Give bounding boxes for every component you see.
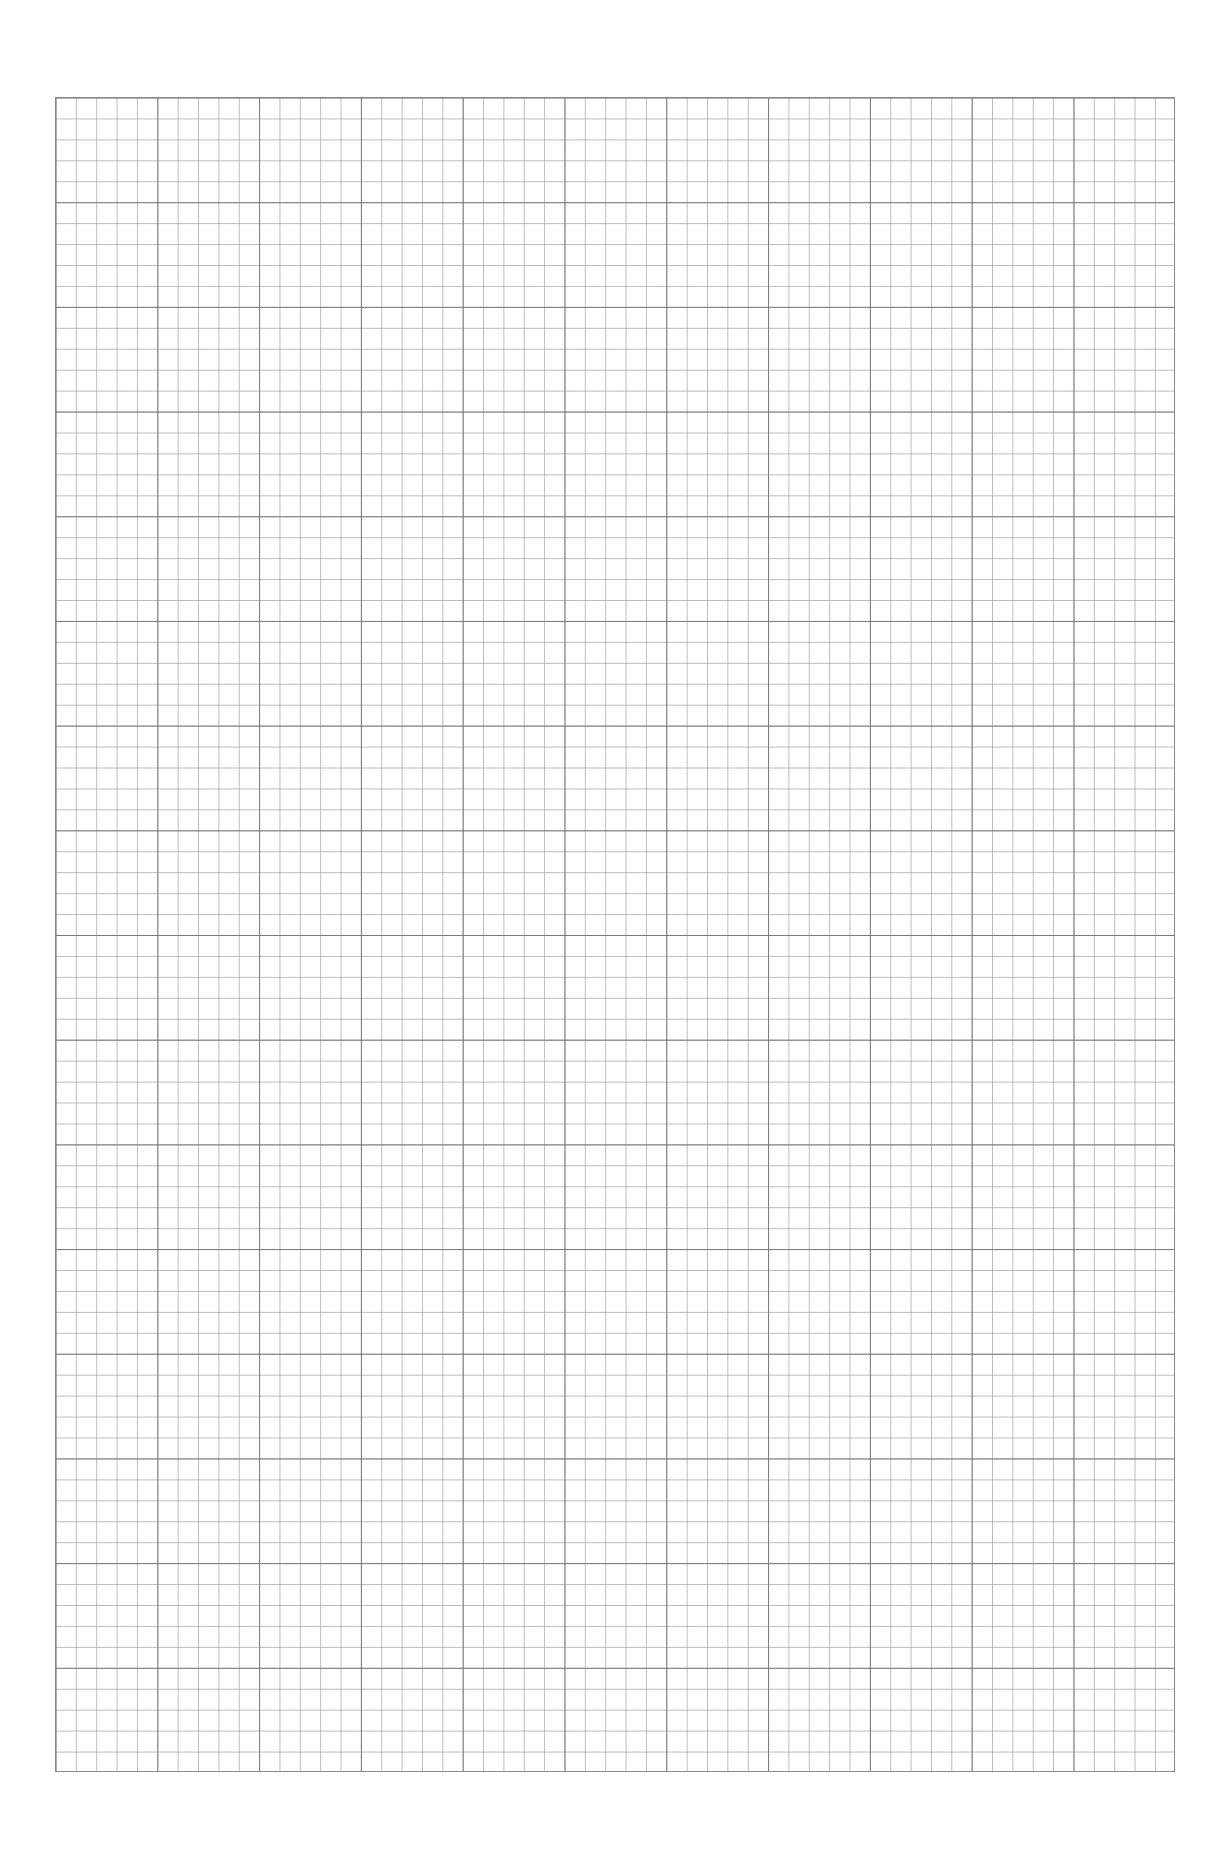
graph-paper-grid [55,97,1175,1772]
